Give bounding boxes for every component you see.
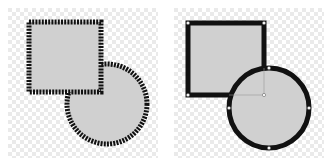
- left-panel: [0, 0, 166, 166]
- handle-icon[interactable]: [307, 106, 310, 109]
- handle-icon[interactable]: [186, 21, 189, 24]
- handle-icon[interactable]: [267, 66, 270, 69]
- handle-icon[interactable]: [262, 93, 265, 96]
- right-canvas: [166, 0, 332, 166]
- handle-icon[interactable]: [267, 146, 270, 149]
- handle-icon[interactable]: [262, 21, 265, 24]
- left-canvas: [0, 0, 166, 166]
- right-panel: [166, 0, 332, 166]
- handle-icon[interactable]: [186, 93, 189, 96]
- circle-shape[interactable]: [229, 68, 309, 148]
- square-shape[interactable]: [29, 22, 101, 92]
- handle-icon[interactable]: [227, 106, 230, 109]
